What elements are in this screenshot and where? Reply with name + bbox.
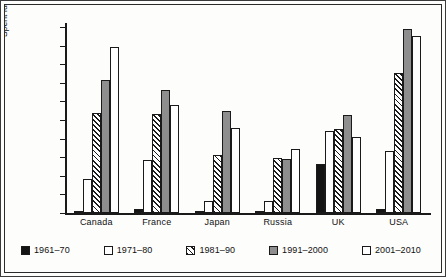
bar: [110, 47, 119, 213]
bar-group: [187, 27, 248, 213]
legend-swatch: [21, 246, 30, 255]
bar: [264, 201, 273, 213]
bar: [204, 201, 213, 213]
bar: [74, 211, 83, 213]
bar: [255, 211, 264, 213]
bar: [213, 155, 222, 213]
legend-item: 1981–90: [186, 245, 235, 255]
legend-label: 1971–80: [117, 245, 153, 255]
bar: [231, 128, 240, 213]
bar: [195, 211, 204, 213]
bar: [376, 209, 385, 213]
bar: [170, 105, 179, 213]
legend-swatch: [104, 246, 113, 255]
legend-item: 1991–2000: [269, 245, 328, 255]
bar: [161, 90, 170, 213]
chart-figure: Spent fuel (tonnes) 20 00018 00016 00014…: [0, 0, 446, 277]
x-axis-label: France: [127, 217, 188, 227]
bar: [352, 137, 361, 213]
bar: [134, 209, 143, 213]
legend-swatch: [269, 246, 278, 255]
bar: [143, 160, 152, 213]
x-axis-line: [65, 213, 431, 215]
y-axis-tick: [60, 27, 65, 28]
bar: [316, 164, 325, 213]
x-axis-label: UK: [308, 217, 369, 227]
legend-swatch: [186, 246, 195, 255]
bar-group: [308, 27, 369, 213]
bar: [334, 129, 343, 213]
bar: [403, 29, 412, 213]
bar: [412, 36, 421, 213]
bar: [343, 115, 352, 213]
bar: [291, 149, 300, 213]
bar: [394, 73, 403, 213]
bar: [385, 151, 394, 213]
y-axis-tick: [60, 83, 65, 84]
bar-groups: [66, 27, 429, 213]
chart-figure-inner-frame: Spent fuel (tonnes) 20 00018 00016 00014…: [4, 4, 442, 273]
y-axis-tick: [60, 101, 65, 102]
bar: [83, 179, 92, 213]
bar: [101, 80, 110, 213]
bar: [152, 114, 161, 213]
bar-group: [248, 27, 309, 213]
x-axis-label: Canada: [66, 217, 127, 227]
bar: [92, 113, 101, 213]
bar-group: [127, 27, 188, 213]
bar: [222, 111, 231, 213]
legend-swatch: [362, 246, 371, 255]
x-axis-labels: CanadaFranceJapanRussiaUKUSA: [66, 217, 429, 227]
bar: [282, 159, 291, 213]
x-axis-label: USA: [369, 217, 430, 227]
y-axis-tick: [60, 194, 65, 195]
legend-label: 1991–2000: [282, 245, 328, 255]
legend-item: 1971–80: [104, 245, 153, 255]
bar-group: [66, 27, 127, 213]
chart-legend: 1961–701971–801981–901991–20002001–2010: [21, 245, 427, 255]
y-axis-tick: [60, 176, 65, 177]
y-axis-tick: [60, 139, 65, 140]
legend-item: 2001–2010: [362, 245, 421, 255]
y-axis-tick: [60, 157, 65, 158]
y-axis-tick: [60, 213, 65, 214]
legend-item: 1961–70: [21, 245, 70, 255]
legend-label: 1981–90: [199, 245, 235, 255]
x-axis-label: Russia: [248, 217, 309, 227]
legend-label: 1961–70: [34, 245, 70, 255]
x-axis-label: Japan: [187, 217, 248, 227]
legend-label: 2001–2010: [375, 245, 421, 255]
bar: [273, 158, 282, 213]
bar-group: [369, 27, 430, 213]
y-axis-tick: [60, 64, 65, 65]
y-axis-title: Spent fuel (tonnes): [4, 4, 9, 61]
bar: [325, 131, 334, 213]
y-axis-tick: [60, 46, 65, 47]
y-axis-tick: [60, 120, 65, 121]
